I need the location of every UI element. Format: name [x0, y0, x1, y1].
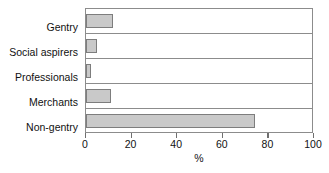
category-label-social-aspirers: Social aspirers — [0, 47, 78, 58]
x-axis-tick-label: 60 — [216, 138, 228, 150]
x-axis-tick-label: 100 — [304, 138, 322, 150]
bar-professionals — [86, 64, 91, 78]
x-axis-tick-label: 40 — [170, 138, 182, 150]
category-label-gentry: Gentry — [0, 22, 78, 33]
bar-chart: Gentry Social aspirers Professionals Mer… — [0, 0, 329, 173]
x-axis-tick-label: 80 — [262, 138, 274, 150]
x-axis-tick-label: 20 — [125, 138, 137, 150]
band-divider — [86, 83, 312, 84]
category-label-merchants: Merchants — [0, 97, 78, 108]
bar-gentry — [86, 14, 113, 28]
bar-merchants — [86, 89, 111, 103]
category-label-non-gentry: Non-gentry — [0, 122, 78, 133]
x-axis-tick-label: 0 — [82, 138, 88, 150]
band-divider — [86, 58, 312, 59]
bar-non-gentry — [86, 114, 255, 128]
bar-social-aspirers — [86, 39, 97, 53]
x-axis-tick-labels: 020406080100 — [85, 138, 313, 152]
x-axis-title: % — [85, 152, 313, 164]
category-label-professionals: Professionals — [0, 72, 78, 83]
plot-area — [85, 8, 313, 133]
band-divider — [86, 33, 312, 34]
band-divider — [86, 108, 312, 109]
category-axis-labels: Gentry Social aspirers Professionals Mer… — [0, 8, 82, 133]
